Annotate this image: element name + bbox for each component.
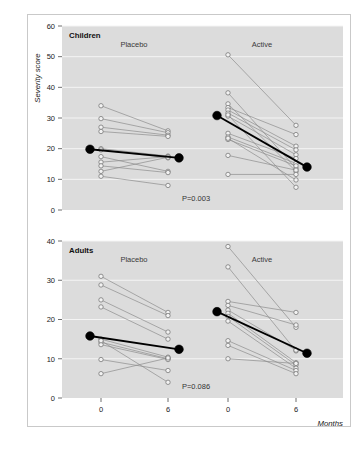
y-tick-label: 30: [47, 114, 55, 123]
y-tick-label: 0: [51, 394, 55, 403]
mean-marker-month6: [175, 345, 184, 354]
pvalue-label-adults: P=0.086: [182, 382, 210, 391]
subject-marker-baseline: [226, 357, 230, 361]
y-tick-label: 40: [47, 237, 55, 246]
figure-root: 0102030405060ChildrenPlaceboActiveP=0.00…: [0, 0, 363, 452]
subject-marker-baseline: [99, 305, 103, 309]
subject-marker-month6: [166, 368, 170, 372]
subject-marker-month6: [294, 371, 298, 375]
subject-marker-month6: [166, 313, 170, 317]
subject-marker-month6: [294, 310, 298, 314]
subject-marker-month6: [166, 134, 170, 138]
subject-marker-month6: [294, 148, 298, 152]
x-tick-label: 0: [99, 405, 103, 414]
x-axis: 0606: [99, 398, 298, 414]
y-axis-title: Severity score: [33, 53, 42, 103]
subject-marker-baseline: [226, 244, 230, 248]
subject-marker-baseline: [99, 104, 103, 108]
panel-adults: 010203040AdultsPlaceboActiveP=0.086: [47, 237, 343, 403]
subject-marker-baseline: [226, 338, 230, 342]
mean-marker-baseline: [86, 145, 95, 154]
subject-marker-baseline: [226, 319, 230, 323]
subject-marker-baseline: [226, 153, 230, 157]
subject-marker-month6: [166, 330, 170, 334]
subject-marker-month6: [166, 337, 170, 341]
subject-marker-month6: [294, 172, 298, 176]
x-axis-title: Months: [317, 419, 343, 428]
subject-marker-baseline: [226, 265, 230, 269]
mean-marker-baseline: [86, 332, 95, 341]
subject-marker-month6: [294, 123, 298, 127]
subject-marker-baseline: [226, 303, 230, 307]
subject-marker-baseline: [99, 164, 103, 168]
subject-marker-baseline: [226, 53, 230, 57]
subject-marker-month6: [294, 168, 298, 172]
subject-marker-month6: [294, 323, 298, 327]
subject-marker-baseline: [226, 172, 230, 176]
subject-marker-month6: [294, 164, 298, 168]
pvalue-label-children: P=0.003: [182, 194, 210, 203]
group-label-placebo: Placebo: [120, 255, 147, 264]
x-tick-label: 0: [226, 405, 230, 414]
subject-marker-baseline: [99, 274, 103, 278]
subject-marker-baseline: [99, 174, 103, 178]
y-tick-label: 50: [47, 52, 55, 61]
y-tick-label: 60: [47, 22, 55, 31]
subject-marker-month6: [294, 178, 298, 182]
panel-title-adults: Adults: [69, 246, 94, 255]
severity-score-chart: 0102030405060ChildrenPlaceboActiveP=0.00…: [0, 0, 363, 452]
subject-marker-month6: [166, 183, 170, 187]
subject-marker-baseline: [99, 371, 103, 375]
subject-marker-baseline: [226, 136, 230, 140]
subject-marker-baseline: [99, 129, 103, 133]
subject-marker-month6: [166, 170, 170, 174]
subject-marker-baseline: [99, 298, 103, 302]
subject-marker-baseline: [99, 154, 103, 158]
subject-marker-month6: [294, 361, 298, 365]
mean-marker-month6: [175, 154, 184, 163]
subject-marker-baseline: [99, 116, 103, 120]
group-label-placebo: Placebo: [120, 40, 147, 49]
x-tick-label: 6: [166, 405, 170, 414]
y-tick-label: 30: [47, 276, 55, 285]
subject-marker-baseline: [99, 357, 103, 361]
x-tick-label: 6: [294, 405, 298, 414]
subject-marker-month6: [166, 356, 170, 360]
mean-marker-baseline: [213, 111, 222, 120]
subject-marker-baseline: [226, 113, 230, 117]
panel-children: 0102030405060ChildrenPlaceboActiveP=0.00…: [47, 22, 343, 215]
subject-marker-baseline: [226, 343, 230, 347]
subject-marker-baseline: [99, 169, 103, 173]
mean-marker-month6: [303, 349, 312, 358]
y-tick-label: 20: [47, 315, 55, 324]
subject-marker-baseline: [99, 125, 103, 129]
y-tick-label: 10: [47, 355, 55, 364]
subject-marker-baseline: [99, 338, 103, 342]
subject-marker-month6: [294, 185, 298, 189]
subject-marker-month6: [166, 380, 170, 384]
y-tick-label: 40: [47, 83, 55, 92]
subject-marker-baseline: [226, 91, 230, 95]
panel-title-children: Children: [69, 31, 101, 40]
mean-marker-month6: [303, 163, 312, 172]
y-tick-label: 20: [47, 144, 55, 153]
subject-marker-baseline: [99, 283, 103, 287]
mean-marker-baseline: [213, 307, 222, 316]
subject-marker-month6: [294, 132, 298, 136]
group-label-active: Active: [252, 255, 272, 264]
y-tick-label: 0: [51, 206, 55, 215]
group-label-active: Active: [252, 40, 272, 49]
y-tick-label: 10: [47, 175, 55, 184]
